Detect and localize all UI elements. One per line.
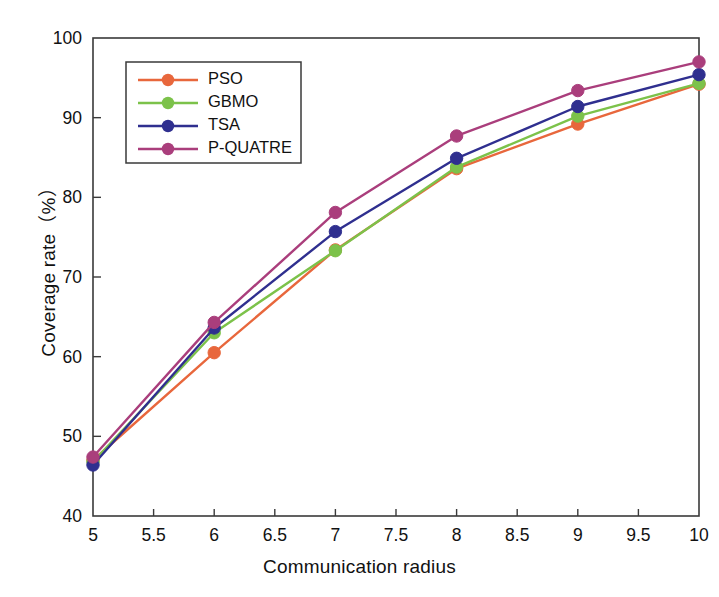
y-tick-label: 100 <box>53 28 82 48</box>
y-tick-label: 50 <box>63 426 83 446</box>
legend: PSOGBMOTSAP-QUATRE <box>126 62 301 163</box>
legend-label: PSO <box>208 69 243 87</box>
y-tick-label: 90 <box>63 108 83 128</box>
y-tick-label: 60 <box>63 347 83 367</box>
data-point <box>693 68 705 80</box>
x-tick-label: 6 <box>209 525 219 545</box>
y-tick-label: 40 <box>63 506 83 526</box>
data-point <box>572 100 584 112</box>
y-axis-label-wrapper: Coverage rate（%） <box>33 118 60 418</box>
data-point <box>572 84 584 96</box>
data-point <box>450 152 462 164</box>
legend-label: P-QUATRE <box>208 138 292 156</box>
y-tick-label: 80 <box>63 187 83 207</box>
data-point <box>208 346 220 358</box>
x-tick-label: 8 <box>452 525 462 545</box>
data-point <box>450 130 462 142</box>
chart-figure: 55.566.577.588.599.510 405060708090100 P… <box>0 0 719 597</box>
legend-label: GBMO <box>208 92 259 110</box>
x-tick-label: 7.5 <box>384 525 408 545</box>
x-tick-label: 9.5 <box>626 525 650 545</box>
legend-marker <box>162 143 174 155</box>
legend-marker <box>162 97 174 109</box>
x-tick-label: 5 <box>88 525 98 545</box>
x-tick-label: 9 <box>573 525 583 545</box>
data-point <box>693 56 705 68</box>
x-tick-label: 5.5 <box>141 525 165 545</box>
x-tick-label: 10 <box>689 525 709 545</box>
data-point <box>329 206 341 218</box>
x-tick-label: 6.5 <box>263 525 287 545</box>
y-tick-label: 70 <box>63 267 83 287</box>
x-axis-label: Communication radius <box>0 556 719 578</box>
data-point <box>208 316 220 328</box>
y-axis-label: Coverage rate（%） <box>38 178 59 357</box>
legend-label: TSA <box>208 115 240 133</box>
x-tick-label: 7 <box>331 525 341 545</box>
data-point <box>87 451 99 463</box>
legend-marker <box>162 74 174 86</box>
x-tick-label: 8.5 <box>505 525 529 545</box>
legend-marker <box>162 120 174 132</box>
data-point <box>329 245 341 257</box>
line-chart: 55.566.577.588.599.510 405060708090100 P… <box>0 0 719 597</box>
data-point <box>329 225 341 237</box>
